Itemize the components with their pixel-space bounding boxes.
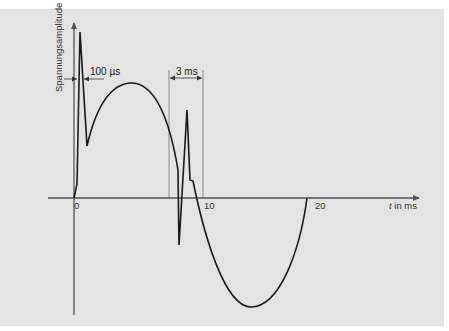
x-axis-unit: in ms bbox=[392, 200, 418, 211]
x-tick-20: 20 bbox=[315, 200, 326, 211]
x-tick-10: 10 bbox=[204, 200, 215, 211]
x-tick-0: 0 bbox=[74, 200, 79, 211]
annotation-3ms: 3 ms bbox=[176, 66, 198, 77]
y-axis-label: Spannungsamplitude bbox=[53, 3, 64, 92]
annotation-100us: 100 µs bbox=[90, 66, 120, 77]
x-axis-label: t in ms bbox=[389, 200, 417, 211]
waveform-chart: Spannungsamplitude 0 10 20 t in ms 100 µ… bbox=[0, 0, 449, 331]
